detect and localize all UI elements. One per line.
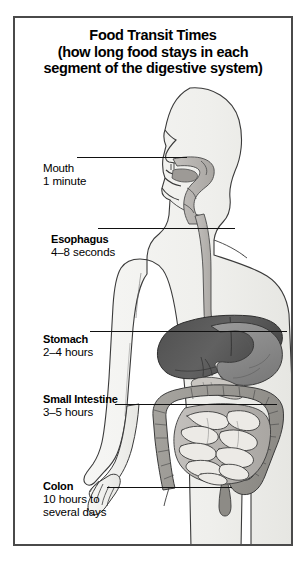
leader-line-small-intestine <box>115 404 277 405</box>
label-stomach-name: Stomach <box>43 333 93 346</box>
label-colon-name: Colon <box>43 480 106 493</box>
appendix <box>164 488 169 506</box>
digestive-system-illustration <box>15 18 293 546</box>
leader-line-stomach <box>90 331 287 332</box>
label-esophagus-name: Esophagus <box>51 233 115 246</box>
label-esophagus-value: 4–8 seconds <box>51 246 115 259</box>
label-colon: Colon 10 hours to several days <box>43 480 106 519</box>
leader-line-colon <box>107 487 232 488</box>
figure-panel: Food Transit Times (how long food stays … <box>13 16 293 546</box>
label-mouth-value: 1 minute <box>43 175 86 188</box>
label-small-intestine-name: Small Intestine <box>43 393 118 406</box>
label-stomach-value: 2–4 hours <box>43 346 93 359</box>
small-intestine-group <box>174 404 271 485</box>
label-colon-value: 10 hours to <box>43 493 106 506</box>
label-small-intestine-value: 3–5 hours <box>43 406 118 419</box>
digestive-transit-times-figure: Food Transit Times (how long food stays … <box>0 0 307 561</box>
label-stomach: Stomach 2–4 hours <box>43 333 93 359</box>
leader-line-mouth <box>77 157 187 158</box>
label-small-intestine: Small Intestine 3–5 hours <box>43 393 118 419</box>
label-esophagus: Esophagus 4–8 seconds <box>51 233 115 259</box>
tongue-shape <box>172 169 197 182</box>
leader-line-esophagus <box>98 228 235 229</box>
label-mouth: Mouth 1 minute <box>43 162 86 188</box>
label-colon-value-2: several days <box>43 506 106 519</box>
label-mouth-name: Mouth <box>43 162 86 175</box>
shoulder-contour <box>214 240 247 258</box>
